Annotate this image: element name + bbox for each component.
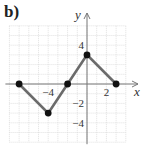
x-tick-label: 2 [104, 86, 110, 98]
chart-plot: xy−424−2−4 [0, 0, 146, 152]
y-tick-label: −4 [72, 117, 84, 129]
data-point [16, 81, 23, 88]
y-tick-label: −2 [72, 97, 84, 109]
x-axis-label: x [133, 84, 140, 99]
data-point [64, 81, 71, 88]
data-point [45, 110, 52, 117]
data-point [113, 81, 120, 88]
tick-labels: xy−424−2−4 [42, 7, 140, 129]
x-tick-label: −4 [42, 86, 54, 98]
y-axis-label: y [73, 7, 81, 22]
data-point [84, 52, 91, 59]
y-tick-label: 4 [79, 39, 85, 51]
